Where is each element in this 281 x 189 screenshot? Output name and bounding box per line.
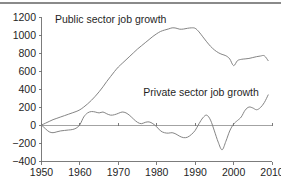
x-axis-tick-label: 1970 (107, 166, 131, 178)
figure-caption-strip (0, 180, 281, 189)
y-axis-tick-label: 0 (30, 119, 36, 131)
y-axis-tick-label: 800 (18, 47, 36, 59)
y-axis-tick-label: −200 (12, 137, 36, 149)
x-axis-tick-label: 1990 (183, 166, 207, 178)
figure-chart: −400−20002004006008001000120019501960197… (0, 0, 281, 189)
y-axis-tick-label: 200 (18, 101, 36, 113)
x-axis-tick-label: 2010 (260, 166, 281, 178)
x-axis-tick-label: 2000 (222, 166, 246, 178)
line-chart-canvas: −400−20002004006008001000120019501960197… (0, 0, 281, 189)
series-line-public-sector-job-growth (42, 28, 269, 125)
x-axis-tick-label: 1980 (145, 166, 169, 178)
y-axis-tick-label: 600 (18, 65, 36, 77)
y-axis-tick-label: 1000 (13, 29, 37, 41)
x-axis-tick-label: 1950 (30, 166, 54, 178)
y-axis-tick-label: 1200 (13, 11, 37, 23)
x-axis-tick-label: 1960 (68, 166, 92, 178)
series-line-private-sector-job-growth (42, 95, 269, 150)
y-axis-tick-label: 400 (18, 83, 36, 95)
series-annotation-2: Private sector job growth (143, 86, 259, 98)
series-annotation-1: Public sector job growth (55, 13, 167, 25)
